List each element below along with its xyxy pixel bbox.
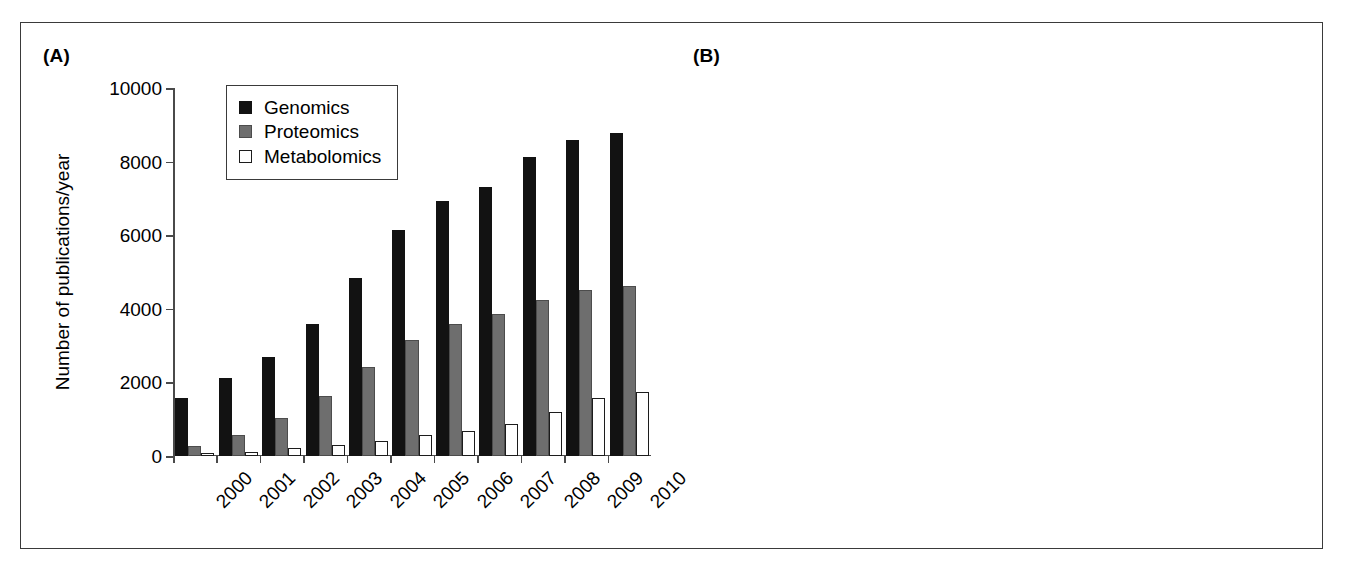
legend-label-proteomics: Proteomics bbox=[264, 121, 359, 143]
panel-a-bar bbox=[349, 278, 362, 456]
panel-b-label: (B) bbox=[693, 45, 720, 67]
legend-label-genomics: Genomics bbox=[264, 97, 350, 119]
panel-a-y-left-tick-label: 10000 bbox=[109, 79, 162, 98]
panel-a-bar bbox=[375, 441, 388, 456]
panel-a-x-tick-label: 2004 bbox=[386, 468, 429, 511]
panel-a-y-left-tick-label: 8000 bbox=[120, 152, 162, 171]
panel-a-x-tick-label: 2009 bbox=[603, 468, 646, 511]
panel-a-y-left-tick bbox=[166, 88, 173, 90]
panel-a-bar bbox=[592, 398, 605, 457]
panel-a: (A) Number of publications/year 02000400… bbox=[21, 23, 681, 550]
panel-a-bar bbox=[536, 300, 549, 456]
panel-a-x-tick-label: 2003 bbox=[343, 468, 386, 511]
panel-a-bar bbox=[245, 452, 258, 456]
panel-a-bar bbox=[436, 201, 449, 456]
panel-a-bar bbox=[449, 324, 462, 456]
panel-a-bar bbox=[201, 453, 214, 456]
panel-a-y-left-tick bbox=[166, 309, 173, 311]
panel-a-y-left-tick-label: 4000 bbox=[120, 299, 162, 318]
panel-a-bar bbox=[636, 392, 649, 456]
figure-frame: (A) Number of publications/year 02000400… bbox=[20, 22, 1323, 549]
panel-a-bar bbox=[275, 418, 288, 456]
panel-a-bar bbox=[479, 187, 492, 456]
panel-a-x-tick-label: 2007 bbox=[516, 468, 559, 511]
panel-a-bar bbox=[362, 367, 375, 456]
panel-a-x-tick-label: 2005 bbox=[430, 468, 473, 511]
panel-a-y-left-tick-label: 6000 bbox=[120, 226, 162, 245]
proteomics-swatch-icon bbox=[239, 125, 252, 138]
panel-a-legend: Genomics Proteomics Metabolomics bbox=[226, 85, 398, 180]
legend-item-proteomics: Proteomics bbox=[239, 121, 381, 143]
panel-a-x-tick-label: 2006 bbox=[473, 468, 516, 511]
panel-a-bar bbox=[188, 446, 201, 456]
panel-a-bar bbox=[319, 396, 332, 456]
panel-a-bar bbox=[523, 157, 536, 456]
panel-a-x-tick bbox=[260, 456, 262, 463]
panel-a-bar bbox=[306, 324, 319, 456]
panel-a-y-left-tick-label: 2000 bbox=[120, 373, 162, 392]
panel-a-bar bbox=[492, 314, 505, 456]
legend-label-metabolomics: Metabolomics bbox=[264, 146, 381, 168]
panel-a-x-tick bbox=[390, 456, 392, 463]
panel-a-bar bbox=[549, 412, 562, 456]
panel-a-x-tick-label: 2002 bbox=[299, 468, 342, 511]
panel-a-x-tick bbox=[608, 456, 610, 463]
panel-a-x-tick bbox=[564, 456, 566, 463]
legend-item-genomics: Genomics bbox=[239, 97, 381, 119]
panel-a-x-tick bbox=[477, 456, 479, 463]
panel-a-x-tick-label: 2000 bbox=[212, 468, 255, 511]
panel-a-bar bbox=[175, 398, 188, 456]
panel-a-bar bbox=[262, 357, 275, 456]
panel-a-x-tick bbox=[173, 456, 175, 463]
legend-item-metabolomics: Metabolomics bbox=[239, 146, 381, 168]
panel-a-bar bbox=[288, 448, 301, 456]
panel-a-bar bbox=[232, 435, 245, 456]
panel-a-y-left-tick bbox=[166, 162, 173, 164]
panel-a-bar bbox=[505, 424, 518, 456]
panel-a-x-tick bbox=[521, 456, 523, 463]
panel-a-bar bbox=[623, 286, 636, 456]
panel-a-label: (A) bbox=[43, 45, 70, 67]
panel-a-bar bbox=[610, 133, 623, 456]
panel-a-bar bbox=[332, 445, 345, 456]
panel-a-x-tick-label: 2001 bbox=[256, 468, 299, 511]
panel-b: (B) 0500100015002000 020406080100120 200… bbox=[681, 23, 1324, 550]
panel-a-y-left-tick-label: 0 bbox=[151, 447, 162, 466]
panel-a-y-left-tick bbox=[166, 382, 173, 384]
panel-a-bar bbox=[392, 230, 405, 456]
panel-a-x-tick-label: 2008 bbox=[560, 468, 603, 511]
panel-a-y-left-tick bbox=[166, 235, 173, 237]
panel-a-bar bbox=[419, 435, 432, 456]
panel-a-bar bbox=[566, 140, 579, 456]
metabolomics-swatch-icon bbox=[239, 150, 252, 163]
panel-a-bar bbox=[579, 290, 592, 456]
panel-a-bar bbox=[462, 431, 475, 456]
panel-a-bar bbox=[405, 340, 418, 456]
panel-a-y-left-tick bbox=[166, 456, 173, 458]
panel-a-y-axis-title: Number of publications/year bbox=[52, 154, 74, 391]
panel-a-x-tick bbox=[303, 456, 305, 463]
panel-a-x-tick bbox=[216, 456, 218, 463]
panel-a-bar bbox=[219, 378, 232, 456]
genomics-swatch-icon bbox=[239, 101, 252, 114]
panel-a-x-tick bbox=[347, 456, 349, 463]
panel-a-x-tick bbox=[434, 456, 436, 463]
